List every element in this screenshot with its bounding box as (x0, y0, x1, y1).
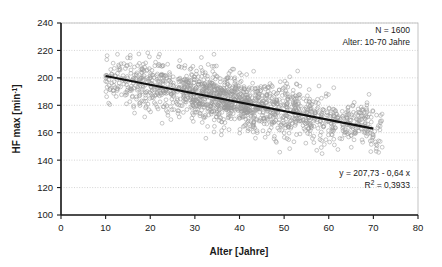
y-tick-label: 100 (37, 209, 53, 220)
x-tick-label: 0 (58, 222, 63, 233)
x-tick-label: 70 (368, 222, 379, 233)
y-axis-title: HF max [min-1] (11, 84, 22, 153)
x-tick-label: 30 (190, 222, 201, 233)
y-axis-title-tail: ] (11, 84, 22, 87)
x-tick-label: 40 (234, 222, 245, 233)
x-tick-label: 10 (100, 222, 111, 233)
y-tick-label: 160 (37, 127, 53, 138)
regression-equation: y = 207,73 - 0,64 x (339, 168, 410, 178)
svg-text:HF max [min-1]: HF max [min-1] (11, 84, 22, 153)
y-tick-label: 120 (37, 182, 53, 193)
y-axis-title-base: HF max [min (11, 94, 22, 154)
x-axis-title: Alter [Jahre] (210, 246, 269, 257)
y-tick-label: 220 (37, 45, 53, 56)
x-tick-label: 60 (323, 222, 334, 233)
y-tick-label: 240 (37, 17, 53, 28)
x-tick-label: 50 (279, 222, 290, 233)
y-tick-label: 180 (37, 100, 53, 111)
sample-info-line-2: Alter: 10-70 Jahre (342, 37, 410, 47)
y-tick-label: 140 (37, 155, 53, 166)
x-tick-label: 80 (413, 222, 424, 233)
sample-info-line-1: N = 1600 (375, 25, 410, 35)
scatter-chart: 100120140160180200220240 010203040506070… (0, 0, 442, 267)
x-tick-label: 20 (145, 222, 156, 233)
chart-figure: 100120140160180200220240 010203040506070… (0, 0, 442, 267)
y-tick-label: 200 (37, 72, 53, 83)
